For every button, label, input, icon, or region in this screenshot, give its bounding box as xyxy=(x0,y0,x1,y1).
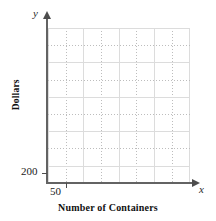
x-axis-title: Number of Containers xyxy=(0,203,216,213)
y-axis-tick-label-200: 200 xyxy=(21,166,38,177)
gridline-vertical xyxy=(83,28,84,183)
gridline-horizontal xyxy=(48,80,190,81)
gridline-horizontal xyxy=(48,45,190,46)
plot-area xyxy=(48,28,190,183)
gridline-vertical xyxy=(48,28,49,183)
y-axis-arrow-icon xyxy=(43,11,51,19)
gridline-vertical xyxy=(119,28,120,183)
gridline-vertical xyxy=(189,28,190,183)
coordinate-grid-figure: y x 200 50 Dollars Number of Containers xyxy=(0,0,216,221)
gridline-horizontal xyxy=(48,114,190,115)
gridline-vertical xyxy=(101,28,102,183)
y-axis-tick xyxy=(42,173,47,174)
gridline-horizontal xyxy=(48,97,190,98)
y-axis-line xyxy=(46,18,48,184)
x-axis-tick xyxy=(66,183,67,188)
gridline-horizontal xyxy=(48,62,190,63)
gridline-horizontal xyxy=(48,131,190,132)
x-axis-line xyxy=(46,182,194,184)
y-axis-variable-label: y xyxy=(33,8,38,19)
x-axis-variable-label: x xyxy=(199,184,204,195)
gridline-horizontal xyxy=(48,148,190,149)
x-axis-tick-label-50: 50 xyxy=(50,186,61,197)
gridline-vertical xyxy=(66,28,67,183)
gridline-horizontal xyxy=(48,28,190,29)
gridline-horizontal xyxy=(48,166,190,167)
gridline-vertical xyxy=(154,28,155,183)
gridline-vertical xyxy=(172,28,173,183)
y-axis-title: Dollars xyxy=(12,63,22,127)
gridline-vertical xyxy=(136,28,137,183)
